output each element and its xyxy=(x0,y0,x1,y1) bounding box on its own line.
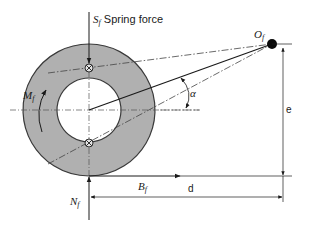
brake-force-subscript: f xyxy=(145,185,147,194)
angle-arc xyxy=(181,78,189,108)
pivot-label: Of xyxy=(254,29,264,42)
moment-symbol: M xyxy=(23,89,32,101)
brake-force-label: Bf xyxy=(138,181,147,194)
normal-force-subscript: f xyxy=(77,200,79,209)
dimension-e-label: e xyxy=(286,105,292,115)
pivot-symbol: O xyxy=(254,28,262,40)
dimension-d-label: d xyxy=(188,184,194,194)
spring-force-label: Sf Spring force xyxy=(93,14,163,27)
cross-symbol-bottom xyxy=(85,139,93,147)
moment-subscript: f xyxy=(32,94,34,103)
moment-label: Mf xyxy=(23,90,34,103)
spring-force-text: Spring force xyxy=(104,13,163,25)
angle-label: α xyxy=(190,88,196,99)
cross-symbol-top xyxy=(85,64,93,72)
spring-force-subscript: f xyxy=(99,18,101,27)
pivot-subscript: f xyxy=(262,33,264,42)
normal-force-label: Nf xyxy=(70,196,80,209)
brake-force-symbol: B xyxy=(138,180,145,192)
